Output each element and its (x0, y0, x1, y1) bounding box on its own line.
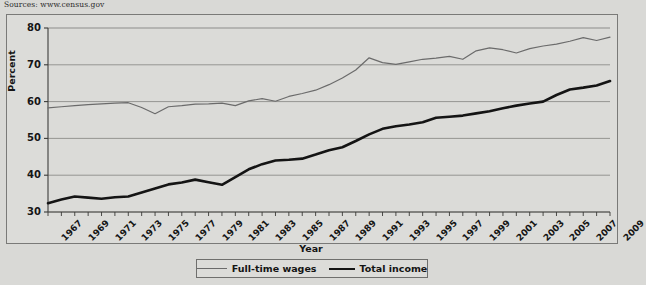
chart-frame: Percent 807060504030 1967196919711973197… (6, 14, 618, 244)
plot-area (7, 15, 617, 243)
legend-item-1: Full-time wages (197, 263, 317, 274)
legend-item-label: Full-time wages (232, 263, 317, 274)
legend-item-2: Total income (329, 263, 428, 274)
legend-line-icon (197, 268, 227, 269)
legend-line-icon (329, 268, 355, 270)
x-axis-title: Year (0, 243, 622, 254)
legend-item-label: Total income (360, 263, 428, 274)
chart-legend: Full-time wagesTotal income (196, 259, 428, 278)
x-tick-label: 2009 (621, 218, 646, 243)
sources-note: Sources: www.census.gov (4, 0, 104, 9)
plot-background (48, 28, 610, 212)
